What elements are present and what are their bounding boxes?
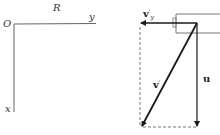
u-label: u — [203, 73, 210, 84]
y-axis-line — [14, 24, 96, 25]
v-prime-label: v′ — [152, 79, 161, 90]
velocity-diagram: R O y x v′y v′ u — [0, 0, 220, 135]
origin-label: O — [3, 18, 11, 29]
vy-prime-label: v′y — [142, 8, 154, 21]
frame-label: R — [52, 2, 61, 13]
x-axis-label: x — [5, 103, 11, 114]
v-prime-arrow — [142, 23, 197, 126]
reference-frame: R O y x — [3, 2, 96, 114]
y-axis-label: y — [88, 11, 95, 22]
